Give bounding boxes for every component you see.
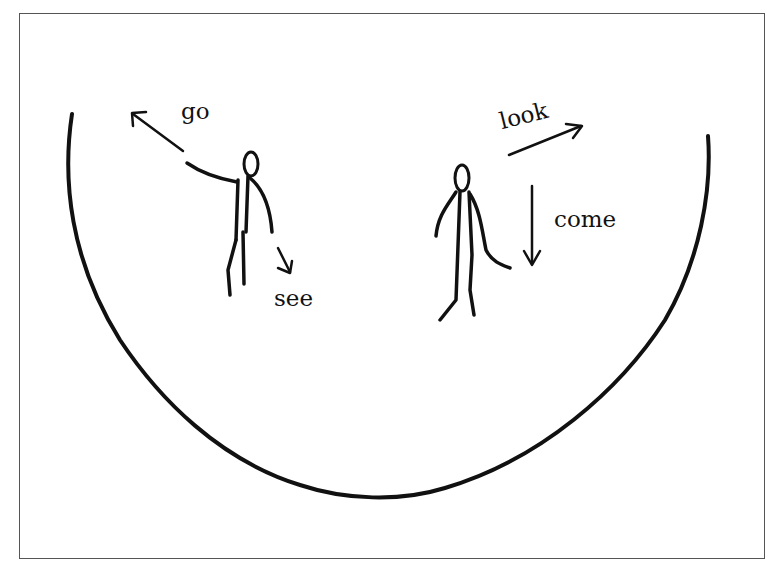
right-stick-figure xyxy=(436,165,510,320)
see-arrow-icon xyxy=(278,248,292,273)
label-go: go xyxy=(181,98,210,124)
come-arrow-icon xyxy=(524,186,540,265)
bowl-arc xyxy=(68,114,708,497)
left-stick-figure xyxy=(187,152,272,295)
label-come: come xyxy=(554,206,616,232)
diagram-drawing xyxy=(0,0,771,574)
label-see: see xyxy=(274,285,313,311)
go-arrow-icon xyxy=(132,112,183,151)
